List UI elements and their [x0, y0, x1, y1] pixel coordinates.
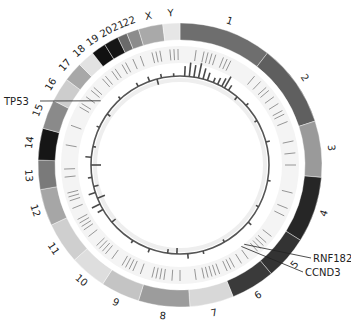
chromosome-label: 2 [299, 72, 312, 84]
chromosome-segment-13 [38, 160, 57, 190]
copy-number-bar [131, 240, 133, 243]
chromosome-segment-14 [38, 128, 59, 160]
chromosome-segment-7 [189, 281, 233, 307]
copy-number-bar [199, 63, 202, 78]
copy-number-bar [98, 210, 103, 213]
chromosome-label: 7 [210, 307, 219, 319]
copy-number-bar [88, 177, 92, 178]
chromosome-label: 1 [225, 15, 235, 27]
copy-number-bar [85, 157, 91, 158]
chromosome-label: 8 [159, 310, 167, 322]
copy-number-bar [248, 222, 251, 225]
copy-number-bar [93, 146, 96, 147]
chromosome-segment-x [138, 24, 164, 45]
chromosome-label: Y [166, 7, 175, 18]
feature-tick [174, 49, 175, 60]
data-track-shadow [95, 80, 265, 250]
gene-label-tp53: TP53 [3, 96, 29, 107]
copy-number-bar [228, 85, 231, 90]
copy-number-track [85, 63, 270, 259]
copy-number-bar [268, 180, 271, 181]
chromosome-segment-3 [299, 121, 322, 177]
chromosome-segment-8 [138, 285, 189, 307]
copy-number-bar [118, 97, 120, 99]
feature-track-background [70, 55, 291, 276]
copy-number-bar [203, 251, 204, 254]
copy-number-bar [194, 65, 196, 77]
copy-number-bar [97, 126, 100, 127]
copy-number-bar [189, 63, 190, 77]
copy-number-bar [208, 73, 210, 81]
gene-label-rnf182: RNF182 [313, 253, 351, 264]
data-track-baseline [91, 76, 269, 254]
chromosome-label: 14 [23, 135, 36, 149]
chromosome-label: 4 [317, 208, 329, 218]
chromosome-ideogram-ring [38, 23, 322, 307]
copy-number-bar [246, 103, 248, 105]
copy-number-bar [213, 78, 215, 83]
chromosome-label: 22 [121, 14, 137, 29]
chromosome-label: 17 [57, 57, 74, 74]
chromosome-segment-12 [40, 187, 67, 225]
chromosome-label: 19 [84, 32, 101, 48]
chromosome-label: 15 [30, 102, 45, 118]
chromosome-label: 3 [326, 144, 338, 152]
copy-number-bar [89, 193, 96, 195]
chromosome-label: 6 [252, 289, 263, 302]
chromosome-label: 13 [23, 169, 35, 182]
chromosome-label: X [144, 10, 153, 22]
copy-number-bar [203, 68, 206, 79]
circos-plot: 12345678910111213141516171819202122XY TP… [0, 0, 351, 330]
chromosome-label: 11 [46, 240, 62, 257]
copy-number-bar [148, 249, 149, 253]
chromosome-label: 9 [111, 296, 121, 309]
copy-number-bar [92, 204, 100, 208]
chromosome-segment-y [163, 23, 180, 41]
copy-number-bar [185, 66, 186, 76]
copy-number-bar [161, 74, 162, 78]
copy-number-bar [266, 141, 270, 142]
chromosome-label: 12 [28, 203, 42, 218]
chromosome-label: 10 [73, 272, 90, 289]
copy-number-bar [218, 78, 221, 84]
chromosome-label: 18 [71, 42, 88, 59]
copy-number-bar [148, 77, 150, 82]
copy-number-bar [136, 83, 138, 87]
chromosome-label: 16 [43, 76, 59, 93]
gene-label-ccnd3: CCND3 [305, 267, 341, 278]
copy-number-bar [168, 249, 169, 253]
